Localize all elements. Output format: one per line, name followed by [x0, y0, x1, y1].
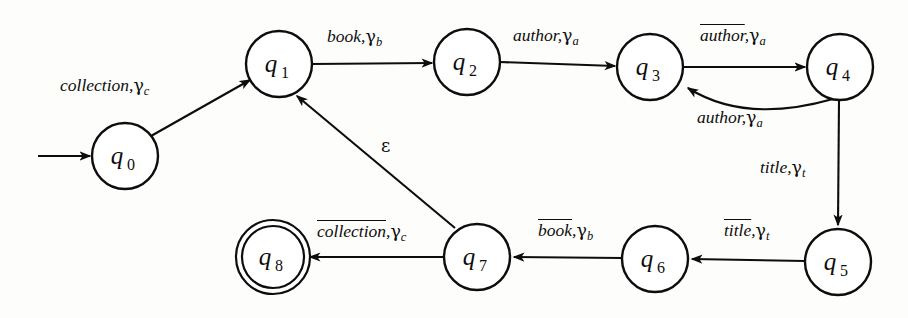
- edge-label-q1-q2-gamma: γ: [365, 26, 375, 46]
- state-circle-q1: [246, 31, 312, 97]
- edge-label-q7-q8: collection,γc: [317, 222, 406, 244]
- state-circle-q0: [92, 123, 158, 189]
- edge-label-q2-q3-word: author: [513, 25, 558, 45]
- edge-label-q4-q5-word: title: [760, 157, 787, 177]
- edge-q1-q2: [312, 63, 432, 64]
- edge-label-q3-q4-gamma-sub: a: [760, 34, 766, 48]
- edge-label-q1-q2: book,γb: [327, 27, 382, 49]
- edge-label-q5-q6-word-negated: title: [724, 219, 751, 240]
- edge-label-q1-q2-word: book: [327, 26, 361, 46]
- edge-label-q4-q5-gamma: γ: [792, 157, 802, 177]
- edge-q4-q5: [838, 100, 839, 225]
- state-label-q2: q: [453, 48, 466, 75]
- state-label-q7: q: [463, 243, 476, 270]
- state-label-q0: q: [111, 142, 124, 169]
- edge-q7-q1: [297, 96, 455, 228]
- state-label-q8: q: [259, 243, 272, 270]
- edge-label-q2-q3-gamma-sub: a: [573, 34, 579, 48]
- edge-label-q2-q3-gamma: γ: [562, 25, 572, 45]
- state-subscript-q3: 3: [652, 67, 660, 84]
- state-subscript-q2: 2: [469, 62, 477, 79]
- state-label-q1: q: [265, 50, 278, 77]
- state-circle-q5: [805, 229, 871, 295]
- state-circle-q2: [434, 29, 500, 95]
- state-label-q5: q: [824, 248, 837, 275]
- edge-label-q6-q7: book,γb: [538, 221, 593, 243]
- state-node-q1[interactable]: q 1: [246, 31, 312, 97]
- state-subscript-q5: 5: [840, 262, 848, 279]
- edge-label-q5-q6: title,γt: [724, 221, 770, 243]
- edge-label-q3-q4-gamma: γ: [749, 25, 759, 45]
- state-node-q0[interactable]: q 0: [92, 123, 158, 189]
- edge-q5-q6: [692, 259, 805, 261]
- accepting-inner-circle-q8: [242, 226, 304, 288]
- state-circle-q7: [444, 224, 510, 290]
- edge-label-q7-q8-gamma: γ: [390, 221, 400, 241]
- edge-label-q5-q6-gamma-sub: t: [766, 229, 769, 243]
- state-label-q3: q: [636, 53, 649, 80]
- edge-label-q6-q7-gamma: γ: [576, 220, 586, 240]
- edge-label-q3-q4-word-negated: author: [700, 24, 745, 45]
- edge-label-q0-q1-gamma-sub: c: [144, 84, 150, 98]
- state-subscript-q1: 1: [281, 64, 289, 81]
- edge-label-q4-q3: author,γa: [697, 108, 763, 130]
- state-subscript-q4: 4: [842, 67, 850, 84]
- edge-q2-q3: [500, 62, 615, 66]
- edge-label-q4-q3-gamma-sub: a: [757, 116, 763, 130]
- edge-q0-q1: [151, 80, 250, 136]
- edge-label-q0-q1-word: collection: [60, 75, 129, 95]
- state-node-q7[interactable]: q 7: [444, 224, 510, 290]
- state-circle-q6: [622, 226, 688, 292]
- state-subscript-q0: 0: [127, 156, 135, 173]
- state-node-q4[interactable]: q 4: [807, 34, 873, 100]
- edge-label-q6-q7-gamma-sub: b: [587, 229, 593, 243]
- edge-label-q2-q3: author,γa: [513, 26, 579, 48]
- state-diagram: q 0 q 1 q 2 q 3 q 4 q 5: [0, 0, 908, 318]
- edge-label-q7-q8-gamma-sub: c: [401, 230, 407, 244]
- edge-label-q1-q2-gamma-sub: b: [376, 35, 382, 49]
- state-node-q8[interactable]: q 8: [236, 220, 310, 294]
- edge-label-q0-q1: collection,γc: [60, 76, 149, 98]
- edge-label-q4-q3-word: author: [697, 107, 742, 127]
- edge-label-q7-q1-epsilon: ε: [381, 137, 390, 156]
- edge-label-q7-q8-word-negated: collection: [317, 220, 386, 241]
- edge-label-q4-q3-gamma: γ: [746, 107, 756, 127]
- state-subscript-q6: 6: [657, 259, 665, 276]
- state-circle-q3: [617, 34, 683, 100]
- edge-label-q6-q7-word-negated: book: [538, 219, 572, 240]
- edge-label-q4-q5: title,γt: [760, 158, 806, 180]
- state-circle-q4: [807, 34, 873, 100]
- state-node-q5[interactable]: q 5: [805, 229, 871, 295]
- edge-label-q4-q5-gamma-sub: t: [802, 166, 805, 180]
- state-node-q3[interactable]: q 3: [617, 34, 683, 100]
- edge-label-q0-q1-gamma: γ: [133, 75, 143, 95]
- edge-q6-q7: [514, 257, 622, 258]
- state-subscript-q7: 7: [479, 257, 487, 274]
- state-label-q6: q: [641, 245, 654, 272]
- state-node-q6[interactable]: q 6: [622, 226, 688, 292]
- edge-label-q5-q6-gamma: γ: [756, 220, 766, 240]
- state-label-q4: q: [826, 53, 839, 80]
- state-subscript-q8: 8: [275, 257, 283, 274]
- edge-label-q3-q4: author,γa: [700, 26, 766, 48]
- state-node-q2[interactable]: q 2: [434, 29, 500, 95]
